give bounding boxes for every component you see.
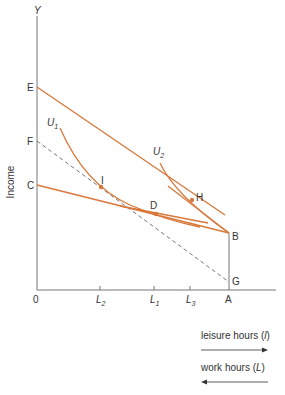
indifference-curve-u1 — [60, 128, 200, 227]
legend-leisure-label: leisure hours (l) — [201, 330, 270, 341]
curve-label-u2: U2 — [153, 146, 164, 159]
arrow-right-icon — [262, 348, 268, 353]
point-label-h: H — [196, 192, 203, 203]
point-label-i: I — [101, 175, 104, 186]
point-h — [190, 198, 194, 202]
point-label-f: F — [27, 136, 33, 147]
point-label-d: D — [150, 200, 157, 211]
tick-label-l3: L3 — [186, 294, 196, 307]
labor-leisure-diagram: Y Income 0 E F C L2 L1 L3 A U1 U2 I D H … — [0, 0, 285, 395]
point-label-g: G — [232, 276, 240, 287]
tick-label-l2: L2 — [96, 294, 106, 307]
tick-label-a: A — [225, 294, 232, 305]
y-axis-top-label: Y — [34, 5, 42, 16]
point-d — [154, 212, 158, 216]
point-label-b: B — [232, 231, 239, 242]
curve-label-u1: U1 — [47, 117, 58, 130]
legend-work-label: work hours (L) — [200, 362, 265, 373]
y-axis-label: Income — [5, 165, 16, 198]
tangent-line-d — [120, 206, 208, 223]
origin-label: 0 — [33, 294, 39, 305]
indifference-curve-u2 — [160, 163, 229, 233]
point-label-e: E — [27, 82, 34, 93]
tick-label-l1: L1 — [150, 294, 160, 307]
point-label-c: C — [27, 180, 34, 191]
arrow-left-icon — [201, 380, 207, 385]
